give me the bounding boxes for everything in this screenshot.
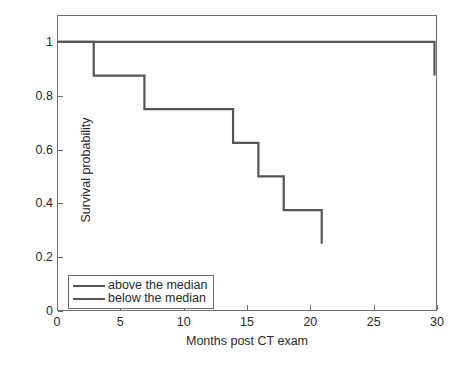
x-tick-mark bbox=[437, 305, 438, 310]
y-tick-label: 0.6 bbox=[36, 143, 53, 157]
legend-item-below-the-median: below the median bbox=[73, 292, 207, 305]
legend: above the median below the median bbox=[68, 275, 214, 309]
y-tick-mark bbox=[58, 96, 63, 97]
y-tick-label: 0 bbox=[46, 304, 53, 318]
survival-curves bbox=[57, 15, 437, 311]
y-tick-label: 0.4 bbox=[36, 196, 53, 210]
curve-above-the-median bbox=[57, 42, 434, 76]
y-tick-mark bbox=[58, 203, 63, 204]
x-axis-title: Months post CT exam bbox=[57, 334, 437, 348]
x-tick-mark bbox=[247, 305, 248, 310]
legend-label-below: below the median bbox=[108, 292, 206, 305]
curve-below-the-median bbox=[57, 42, 322, 244]
x-tick-label: 5 bbox=[117, 315, 124, 329]
y-tick-mark bbox=[58, 150, 63, 151]
y-axis-title: Survival probability bbox=[79, 22, 93, 318]
y-tick-label: 0.2 bbox=[36, 250, 53, 264]
x-tick-label: 0 bbox=[54, 315, 61, 329]
x-tick-label: 15 bbox=[240, 315, 254, 329]
x-tick-mark bbox=[374, 305, 375, 310]
y-tick-label: 0.8 bbox=[36, 89, 53, 103]
x-tick-label: 20 bbox=[303, 315, 317, 329]
y-tick-mark bbox=[58, 42, 63, 43]
x-tick-label: 10 bbox=[177, 315, 191, 329]
x-tick-label: 30 bbox=[430, 315, 444, 329]
y-tick-mark bbox=[58, 311, 63, 312]
y-tick-label: 1 bbox=[46, 35, 53, 49]
x-tick-mark bbox=[57, 305, 58, 310]
legend-line-swatch-above bbox=[73, 285, 105, 287]
survival-curve-figure: 051015202530 00.20.40.60.81 Months post … bbox=[0, 0, 454, 369]
y-tick-mark bbox=[58, 257, 63, 258]
legend-line-swatch-below bbox=[73, 298, 105, 300]
x-tick-mark bbox=[310, 305, 311, 310]
x-tick-label: 25 bbox=[367, 315, 381, 329]
